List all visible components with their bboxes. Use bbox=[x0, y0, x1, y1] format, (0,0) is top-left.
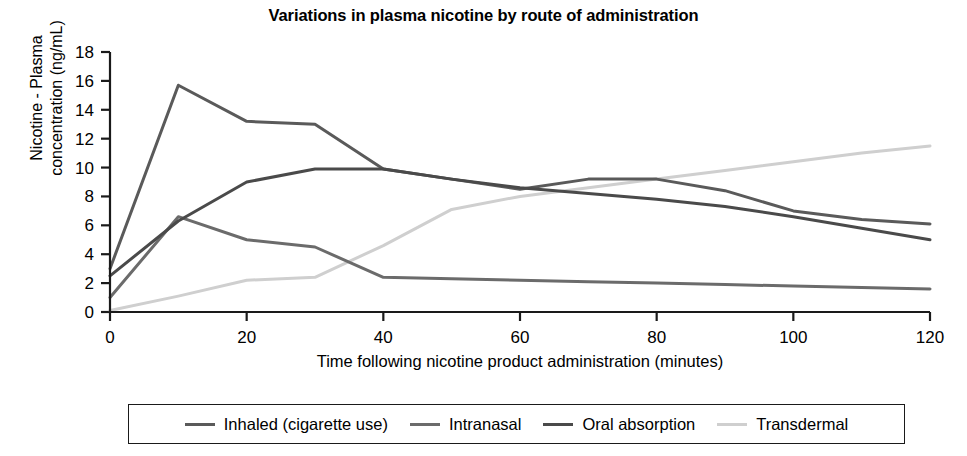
y-tick-label: 8 bbox=[85, 187, 94, 206]
x-tick-label: 100 bbox=[779, 328, 807, 347]
y-tick-label: 16 bbox=[75, 72, 94, 91]
legend-entry[interactable]: Transdermal bbox=[706, 415, 859, 434]
y-tick-label: 12 bbox=[75, 130, 94, 149]
chart-figure: Variations in plasma nicotine by route o… bbox=[0, 0, 967, 456]
y-tick-label: 2 bbox=[85, 274, 94, 293]
y-tick-label: 4 bbox=[85, 245, 94, 264]
data-line-inhaled-cigarette-use bbox=[110, 85, 930, 268]
x-tick-label: 60 bbox=[511, 328, 530, 347]
x-tick-label: 0 bbox=[105, 328, 114, 347]
data-line-oral-absorption bbox=[110, 169, 930, 276]
legend-swatch-icon bbox=[717, 423, 747, 426]
legend-entry[interactable]: Inhaled (cigarette use) bbox=[174, 415, 399, 434]
y-tick-group: 024681012141618 bbox=[75, 43, 110, 322]
y-tick-label: 10 bbox=[75, 159, 94, 178]
legend-label: Inhaled (cigarette use) bbox=[224, 415, 388, 434]
x-tick-label: 120 bbox=[916, 328, 944, 347]
data-line-intranasal bbox=[110, 217, 930, 298]
legend-swatch-icon bbox=[410, 423, 440, 426]
chart-legend: Inhaled (cigarette use)IntranasalOral ab… bbox=[128, 404, 905, 444]
x-axis-title: Time following nicotine product administ… bbox=[100, 352, 940, 371]
x-tick-label: 40 bbox=[374, 328, 393, 347]
y-tick-label: 14 bbox=[75, 101, 94, 120]
legend-entry[interactable]: Oral absorption bbox=[532, 415, 706, 434]
legend-label: Intranasal bbox=[449, 415, 521, 434]
x-tick-group: 020406080100120 bbox=[105, 312, 944, 347]
y-tick-label: 6 bbox=[85, 216, 94, 235]
legend-swatch-icon bbox=[543, 423, 573, 426]
legend-swatch-icon bbox=[185, 423, 215, 426]
plot-area: 024681012141618 020406080100120 bbox=[0, 0, 967, 400]
y-tick-label: 0 bbox=[85, 303, 94, 322]
x-tick-label: 20 bbox=[237, 328, 256, 347]
data-series-group bbox=[110, 85, 930, 310]
x-tick-label: 80 bbox=[647, 328, 666, 347]
legend-label: Oral absorption bbox=[582, 415, 695, 434]
legend-entry[interactable]: Intranasal bbox=[399, 415, 532, 434]
y-tick-label: 18 bbox=[75, 43, 94, 62]
legend-label: Transdermal bbox=[756, 415, 848, 434]
